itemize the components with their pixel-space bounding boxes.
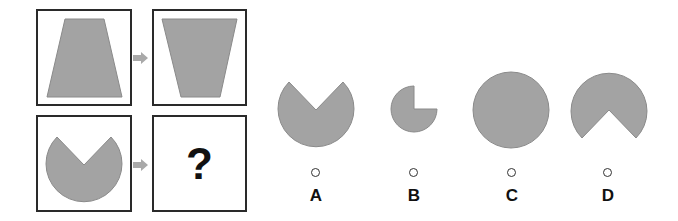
option-a-label: A [301, 186, 331, 206]
grid-cell-bottom-left [36, 115, 132, 212]
arrow-right-icon [133, 50, 149, 68]
option-b-shape[interactable] [389, 84, 439, 134]
option-a-shape[interactable] [276, 69, 356, 151]
notched-circle-shape [38, 117, 130, 210]
question-mark: ? [154, 117, 245, 210]
option-c-radio[interactable] [507, 168, 516, 177]
option-d-label: D [593, 186, 623, 206]
trapezoid-shape [38, 11, 130, 104]
option-d-shape[interactable] [569, 69, 649, 151]
grid-cell-bottom-right: ? [152, 115, 247, 212]
grid-cell-top-left [36, 9, 132, 106]
option-c-shape[interactable] [471, 70, 551, 150]
option-a-radio[interactable] [311, 168, 320, 177]
option-c-label: C [497, 186, 527, 206]
grid-cell-top-right [152, 9, 247, 106]
inverted-trapezoid-shape [154, 11, 245, 104]
option-b-radio[interactable] [409, 168, 418, 177]
arrow-right-icon [133, 157, 149, 175]
option-d-radio[interactable] [603, 168, 612, 177]
option-b-label: B [399, 186, 429, 206]
